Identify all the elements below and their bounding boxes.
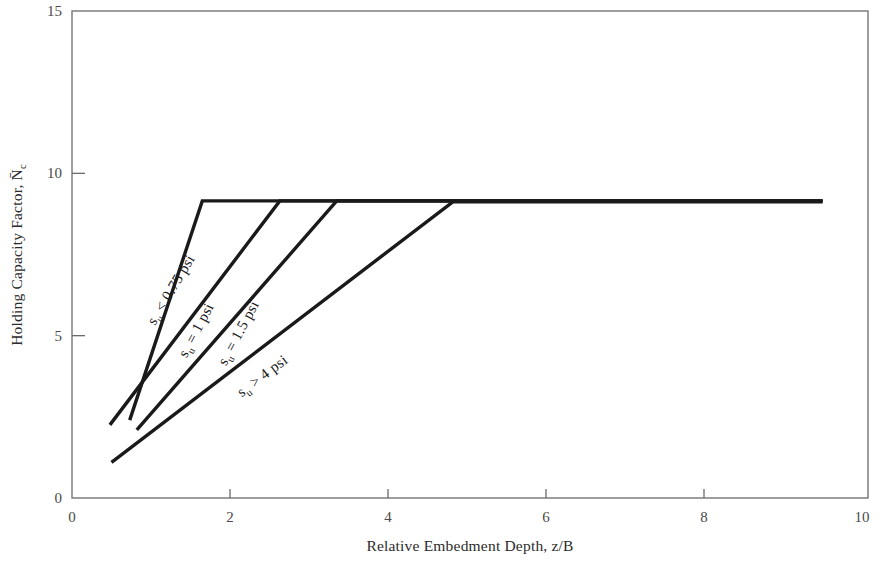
- svg-text:Holding Capacity Factor, N̄c: Holding Capacity Factor, N̄c: [8, 164, 28, 346]
- y-axis-title: Holding Capacity Factor, N̄c: [8, 164, 28, 346]
- y-tick-label-0: 0: [55, 490, 63, 506]
- y-axis-tick-labels: 051015: [47, 3, 62, 506]
- data-line-1: [110, 201, 823, 425]
- curve-label-3: su > 4 psi: [234, 352, 292, 403]
- y-tick-label-15: 15: [47, 3, 62, 19]
- x-tick-label-8: 8: [700, 509, 708, 525]
- x-tick-label-2: 2: [226, 509, 234, 525]
- plot-frame: [72, 11, 868, 498]
- y-tick-label-10: 10: [47, 165, 62, 181]
- x-tick-label-4: 4: [384, 509, 392, 525]
- y-axis-ticks: [72, 173, 85, 335]
- chart-plot-area: 0246810 051015 su < 0.75 psisu = 1 psisu…: [0, 0, 881, 562]
- x-tick-label-6: 6: [542, 509, 550, 525]
- x-axis-title: Relative Embedment Depth, z/B: [366, 537, 573, 554]
- x-tick-label-10: 10: [855, 509, 870, 525]
- chart-figure: 0246810 051015 su < 0.75 psisu = 1 psisu…: [0, 0, 881, 562]
- y-tick-label-5: 5: [55, 328, 63, 344]
- data-line-3: [112, 202, 823, 462]
- x-axis-tick-labels: 0246810: [68, 509, 869, 525]
- x-tick-label-0: 0: [68, 509, 76, 525]
- x-axis-ticks: [230, 489, 704, 498]
- data-series-lines: [110, 201, 823, 462]
